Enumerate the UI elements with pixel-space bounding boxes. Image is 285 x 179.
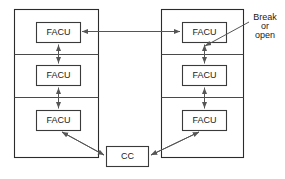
node-right-facu-2[interactable]: FACU <box>183 66 227 86</box>
node-right-facu-3[interactable]: FACU <box>183 111 227 131</box>
node-right-facu-2-label: FACU <box>192 70 216 80</box>
node-left-facu-1-label: FACU <box>46 27 70 37</box>
node-left-facu-2[interactable]: FACU <box>37 66 81 86</box>
diagram-canvas: FACU FACU FACU FACU <box>0 0 285 179</box>
node-left-facu-3[interactable]: FACU <box>37 111 81 131</box>
node-cc-label: CC <box>121 151 134 161</box>
diagram-svg: FACU FACU FACU FACU <box>0 0 285 179</box>
node-left-facu-1[interactable]: FACU <box>37 23 81 43</box>
node-right-facu-1[interactable]: FACU <box>183 23 227 43</box>
node-left-facu-3-label: FACU <box>46 115 70 125</box>
annotation-line-3: open <box>255 30 275 40</box>
node-left-facu-2-label: FACU <box>46 70 70 80</box>
node-cc[interactable]: CC <box>107 147 149 167</box>
node-right-facu-3-label: FACU <box>192 115 216 125</box>
node-right-facu-1-label: FACU <box>192 27 216 37</box>
